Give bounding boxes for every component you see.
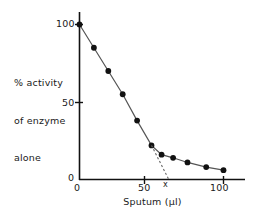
data-point	[185, 160, 191, 166]
data-point	[221, 167, 227, 173]
plot-area	[0, 0, 261, 221]
data-point	[203, 164, 209, 170]
data-point	[77, 22, 83, 28]
data-point	[91, 45, 97, 51]
series-line	[80, 25, 224, 171]
data-point	[159, 152, 165, 158]
data-point	[134, 118, 140, 124]
axes	[75, 12, 245, 184]
data-point	[105, 68, 111, 74]
data-point	[120, 91, 126, 97]
chart-figure: % activity of enzyme alone 100 50 0 0 50…	[0, 0, 261, 221]
data-point	[170, 155, 176, 161]
annotations	[152, 145, 169, 179]
data-series	[77, 22, 227, 174]
extrapolation-line	[152, 145, 169, 179]
series-markers	[77, 22, 227, 174]
